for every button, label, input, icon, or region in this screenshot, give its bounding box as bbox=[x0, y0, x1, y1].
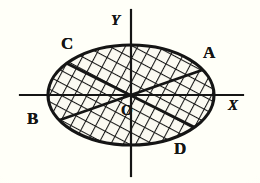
y-axis-label: Y bbox=[111, 13, 120, 28]
point-label-c: C bbox=[61, 35, 73, 52]
figure-canvas bbox=[0, 0, 260, 183]
point-label-b: B bbox=[27, 110, 38, 127]
ellipse-figure: A B C D O X Y bbox=[0, 0, 260, 183]
point-label-a: A bbox=[203, 44, 215, 61]
x-axis-label: X bbox=[228, 98, 238, 113]
origin-label: O bbox=[121, 103, 133, 118]
point-label-d: D bbox=[174, 140, 186, 157]
